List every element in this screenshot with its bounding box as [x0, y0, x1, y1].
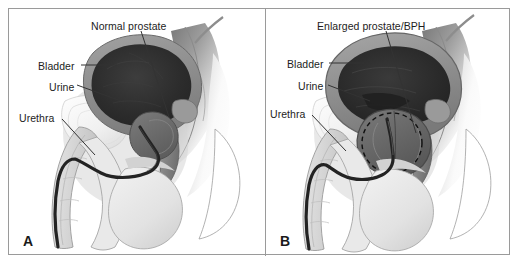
panel-letter-a: A	[23, 234, 33, 248]
label-urine: Urine	[298, 81, 323, 92]
figure-frame: Normal prostate Bladder Urine Urethra A	[8, 8, 510, 255]
label-urine: Urine	[49, 82, 74, 93]
seminal-vesicle	[425, 99, 450, 123]
label-normal-prostate: Normal prostate	[91, 21, 166, 32]
panel-a-normal-prostate: Normal prostate Bladder Urine Urethra A	[9, 9, 265, 256]
panel-b-illustration	[266, 9, 519, 256]
label-enlarged-prostate: Enlarged prostate/BPH	[317, 21, 425, 32]
prostate-normal	[130, 112, 178, 160]
panel-b-enlarged-prostate: Enlarged prostate/BPH Bladder Urine Uret…	[266, 9, 519, 256]
label-urethra: Urethra	[19, 113, 54, 124]
panel-a-illustration	[9, 9, 265, 256]
figure-container: Normal prostate Bladder Urine Urethra A	[0, 0, 519, 266]
label-bladder: Bladder	[287, 59, 324, 70]
label-bladder: Bladder	[38, 61, 75, 72]
panel-letter-b: B	[280, 234, 290, 248]
seminal-vesicle	[172, 99, 197, 123]
label-urethra: Urethra	[270, 109, 305, 120]
